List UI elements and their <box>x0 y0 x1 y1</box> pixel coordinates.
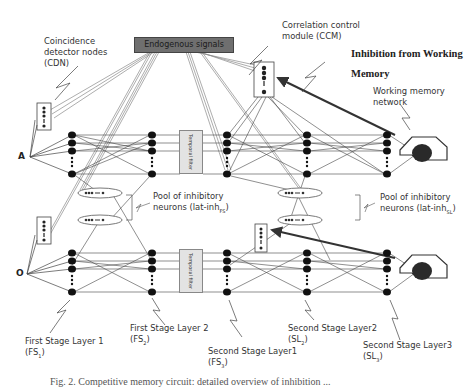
sl3-label: Second Stage Layer3 (SL3) <box>363 340 452 366</box>
pool-fs-label: Pool of inhibitory neurons (lat-inhFS) <box>153 191 229 217</box>
cdn-label: Coincidencedetector nodes(CDN) <box>44 36 107 69</box>
input-label-a: A <box>18 151 25 161</box>
temporal-filter-label: Temporal filter <box>188 134 194 170</box>
sl1-label: Second Stage Layer1 (FS3) <box>208 346 297 372</box>
input-label-o: O <box>16 268 24 278</box>
inhibition-wm-label: Inhibition from WorkingMemory <box>351 44 463 84</box>
wm-network-label: Working memorynetwork <box>373 86 445 108</box>
temporal-filter-top: Temporal filter <box>179 130 203 174</box>
temporal-filter-bottom: Temporal filter <box>179 249 203 293</box>
ccm-label: Correlation controlmodule (CCM) <box>282 20 360 42</box>
temporal-filter-label: Temporal filter <box>188 253 194 289</box>
figure-caption: Fig. 2. Competitive memory circuit: deta… <box>50 376 331 387</box>
pool-sl-label: Pool of inhibitory neurons (lat-inhSL) <box>380 192 456 218</box>
fs1-label: First Stage Layer 1 (FS1) <box>25 336 104 362</box>
fs2-label: First Stage Layer 2 (FS2) <box>130 323 209 349</box>
endogenous-signals-box: Endogenous signals <box>134 37 234 53</box>
